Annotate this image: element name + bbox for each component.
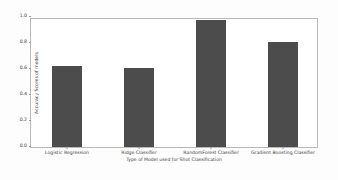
x-axis-label: Type of Model used for Shot Classificati… (126, 158, 222, 163)
x-axis-tick-mark (139, 147, 140, 149)
y-axis-tick-label: 1.0 (20, 15, 27, 20)
x-axis-tick-label: Gradient Boosting Classifier (251, 151, 315, 156)
x-axis-tick-mark (67, 147, 68, 149)
y-axis-tick-label: 0.8 (20, 41, 27, 46)
y-axis-label: Accuracy Scores of models (35, 52, 40, 114)
plot-area: Accuracy Scores of models 0.00.20.40.60.… (30, 18, 318, 148)
y-axis-tick-mark (29, 94, 31, 95)
x-axis-tick-label: Logistic Regression (45, 151, 89, 156)
y-axis-tick-mark (29, 42, 31, 43)
bar (268, 42, 298, 147)
y-axis-tick-mark (29, 120, 31, 121)
bar (196, 20, 226, 147)
x-axis-tick-label: RandomForest Classifier (183, 151, 239, 156)
bar-chart-figure: Accuracy Scores of models 0.00.20.40.60.… (0, 0, 338, 180)
bar (124, 68, 154, 147)
y-axis-tick-label: 0.6 (20, 67, 27, 72)
x-axis-tick-mark (283, 147, 284, 149)
y-axis-tick-label: 0.2 (20, 119, 27, 124)
y-axis-tick-label: 0.4 (20, 93, 27, 98)
y-axis-tick-mark (29, 68, 31, 69)
y-axis-tick-mark (29, 16, 31, 17)
x-axis-tick-mark (211, 147, 212, 149)
bar (52, 66, 82, 147)
y-axis-tick-label: 0.0 (20, 145, 27, 150)
y-axis-tick-mark (29, 146, 31, 147)
x-axis-tick-label: Ridge Classifier (121, 151, 157, 156)
